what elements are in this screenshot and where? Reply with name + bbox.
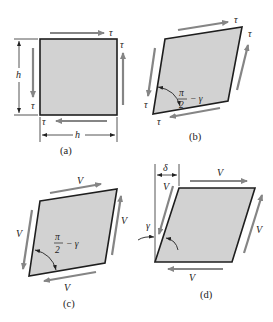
- figure-svg: τ τ τ τ h h (a) τ τ τ τ π 2: [0, 0, 273, 322]
- v-label-right: V: [121, 215, 129, 226]
- v-label-bottom: V: [64, 282, 72, 293]
- panel-b: τ τ τ τ π 2 − γ (b): [144, 14, 252, 143]
- tau-label-right: τ: [120, 39, 124, 50]
- v-label-top: V: [217, 167, 225, 178]
- tau-label-bottom: τ: [42, 116, 46, 127]
- v-label-left: V: [16, 228, 24, 239]
- shear-deformation-figure: τ τ τ τ h h (a) τ τ τ τ π 2: [0, 0, 273, 322]
- two-denominator: 2: [55, 245, 60, 255]
- shear-arrow-top: [178, 22, 228, 30]
- pi-numerator: π: [179, 88, 184, 98]
- v-label-bottom: V: [189, 272, 197, 283]
- rhombus-element: [29, 189, 117, 276]
- minus-gamma: − γ: [190, 94, 203, 104]
- tau-label-bottom: τ: [157, 116, 161, 127]
- panel-c: V V V V π 2 − γ (c): [16, 175, 129, 310]
- caption-d: (d): [200, 289, 213, 301]
- gamma-pointer: [138, 237, 154, 240]
- caption-c: (c): [63, 298, 75, 310]
- shear-arrow-right: [237, 45, 248, 90]
- v-label-top: V: [77, 175, 85, 186]
- shear-arrow-left: [148, 48, 155, 96]
- gamma-label: γ: [146, 220, 151, 231]
- caption-b: (b): [189, 131, 202, 143]
- panel-d: δ V V V V γ (d): [138, 162, 264, 301]
- panel-a: τ τ τ τ h h (a): [14, 27, 124, 157]
- minus-gamma: − γ: [66, 239, 79, 249]
- tau-label-left: τ: [144, 99, 148, 110]
- delta-label: δ: [163, 162, 168, 173]
- tau-label-right: τ: [248, 28, 252, 39]
- two-denominator: 2: [179, 100, 184, 110]
- square-element: [40, 39, 117, 115]
- force-arrow-bottom: [44, 272, 96, 281]
- force-arrow-top: [50, 184, 101, 193]
- h-label-horizontal: h: [75, 129, 80, 140]
- v-label-right: V: [256, 224, 264, 235]
- caption-a: (a): [60, 145, 72, 157]
- tau-label-top: τ: [109, 27, 113, 38]
- h-label-vertical: h: [16, 69, 21, 80]
- pi-numerator: π: [55, 232, 60, 242]
- v-label-left: V: [163, 181, 171, 192]
- tau-label-left: τ: [31, 100, 35, 111]
- tau-label-top: τ: [234, 14, 238, 25]
